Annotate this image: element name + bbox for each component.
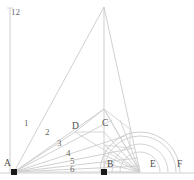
point-label-b: B (107, 160, 113, 170)
geometry-figure: 12 A B C D E F 1 2 3 4 5 6 (0, 0, 194, 180)
ray-label-3: 3 (57, 139, 62, 148)
point-label-c: C (102, 119, 108, 129)
point-label-d: D (72, 122, 79, 132)
axis-value-label: 12 (11, 8, 20, 17)
ray-label-1: 1 (24, 119, 29, 128)
point-label-a: A (4, 159, 11, 169)
geometry-canvas (0, 0, 194, 180)
ray-label-6: 6 (70, 165, 75, 174)
point-marker-b (101, 169, 107, 175)
segment-d-c (75, 109, 104, 132)
ray-label-2: 2 (45, 128, 50, 137)
point-marker-a (11, 169, 17, 175)
point-label-e: E (150, 160, 156, 170)
point-label-f: F (177, 160, 182, 170)
